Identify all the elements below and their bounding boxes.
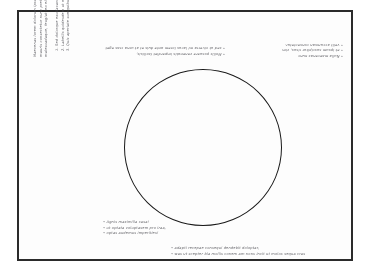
list-item: optas audemus imperities! [103,231,166,237]
diagram-canvas: Nulla maecenas nunc et ipsum suscipitur … [0,0,371,276]
list-item: was ut scepter bla mollis conem am nons … [171,252,305,258]
list-item: 3. Quis aperiate sumquibus imperitation? [66,0,72,51]
center-circle-shape [124,69,282,226]
list-item: velit accumsan consectetur. [282,41,343,47]
bottom-left-bullet-list: Agnis maximilla casa! ut optata voluptas… [103,220,166,237]
bottom-right-bullet-list: adapti recepae consequi dendebit dolopta… [171,246,305,257]
list-item: 1. Sed dolorque exullacandumur? [55,0,61,51]
top-left-bullet-list: Nulla maecenas nunc et ipsum suscipitur … [282,41,343,58]
list-item: Nulla maecenas nunc [282,52,343,58]
left-paragraph-text: Maecenas lorem dolorum ipsum elloribus e… [33,0,50,57]
top-right-bullet-list: Mollis posuere venenatis imperdiet facil… [105,45,225,56]
top-annotation-group: Nulla maecenas nunc et ipsum suscipitur … [111,28,343,58]
bottom-annotation-group: Agnis maximilla casa! ut optata voluptas… [103,220,353,276]
board-frame: Nulla maecenas nunc et ipsum suscipitur … [17,10,353,261]
left-annotation-group: Maecenas lorem dolorum ipsum elloribus e… [31,0,91,57]
list-item: sed ut viverra mi lacus lorem ante duis … [105,45,225,51]
list-item: et ipsum suscipitur risus, vim [282,47,343,53]
left-numbered-list: 1. Sed dolorque exullacandumur? 2. Label… [55,0,72,51]
list-item: Mollis posuere venenatis imperdiet facil… [105,50,225,56]
